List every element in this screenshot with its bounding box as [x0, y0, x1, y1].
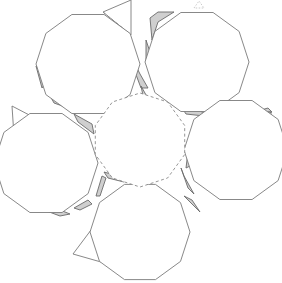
center-decagon-face: [95, 93, 184, 187]
small-triangle-marker: [194, 1, 204, 8]
net-svg: [0, 0, 282, 283]
glue-tab: [184, 196, 200, 212]
decagon-face-left: [0, 114, 98, 213]
markers: [194, 1, 204, 8]
decagon-face-center: [95, 93, 184, 187]
net-diagram: [0, 0, 282, 283]
decagon-face-top-right: [145, 13, 249, 112]
glue-tab: [96, 176, 106, 196]
decagon-face-bottom: [90, 184, 190, 279]
